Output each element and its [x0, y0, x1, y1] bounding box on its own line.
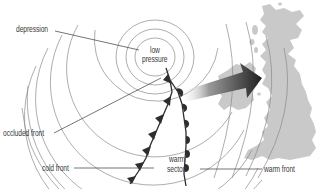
depression-label: depression: [16, 25, 48, 34]
low-pressure-label-line2: pressure: [142, 55, 167, 64]
cold-front-line: [127, 68, 172, 184]
low-pressure-label-line1: low: [150, 46, 160, 55]
weather-depression-diagram: depression low pressure occluded front c…: [0, 0, 319, 189]
cold-front-label: cold front: [42, 164, 69, 173]
warm-sector-label-line2: sector: [167, 165, 185, 174]
occluded-front-label: occluded front: [3, 129, 44, 138]
warm-front-label: warm front: [264, 165, 295, 174]
warm-sector-label-line1: warm: [169, 155, 185, 164]
